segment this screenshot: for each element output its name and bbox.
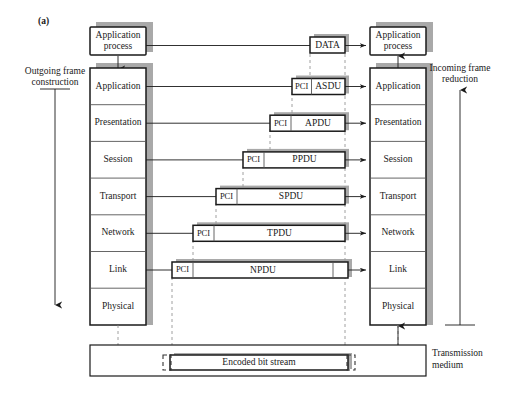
pdu-label-ppdu: PPDU: [292, 154, 316, 164]
pdu-pci-tpdu: PCI: [197, 228, 210, 238]
pdu-pci-asdu: PCI: [295, 81, 308, 91]
source-layer-physical: Physical: [102, 301, 135, 311]
pdu-label-apdu: APDU: [305, 118, 331, 128]
diagram-canvas: (a) Application process Application Pres…: [0, 0, 515, 396]
outgoing-label-line2: construction: [32, 77, 79, 87]
transmission-medium-label-2: medium: [432, 360, 464, 370]
pdu-label-npdu: NPDU: [250, 265, 276, 275]
pdu-pci-spdu: PCI: [220, 191, 233, 201]
encoded-bit-stream-label: Encoded bit stream: [222, 357, 296, 367]
source-layer-transport: Transport: [100, 191, 137, 201]
figure-tag: (a): [38, 16, 49, 27]
source-process-label-1: Application: [96, 30, 141, 40]
outgoing-label-line1: Outgoing frame: [25, 66, 85, 76]
destination-process-label-1: Application: [376, 30, 421, 40]
incoming-label-line1: Incoming frame: [430, 63, 491, 73]
source-layer-presentation: Presentation: [95, 117, 142, 127]
pdu-pci-ppdu: PCI: [247, 154, 260, 164]
pdu-label-asdu: ASDU: [315, 81, 341, 91]
destination-layer-application: Application: [376, 81, 421, 91]
osi-encapsulation-diagram: (a) Application process Application Pres…: [0, 0, 515, 396]
pdu-pci-apdu: PCI: [274, 118, 287, 128]
pdu-label-spdu: SPDU: [279, 191, 303, 201]
destination-process-label-2: process: [384, 41, 413, 51]
incoming-label-line2: reduction: [442, 74, 478, 84]
destination-layer-presentation: Presentation: [375, 117, 422, 127]
pdu-label-tpdu: TPDU: [267, 228, 292, 238]
source-layer-link: Link: [109, 264, 127, 274]
source-layer-network: Network: [101, 227, 134, 237]
pdu-label-data: DATA: [315, 40, 340, 50]
destination-layer-physical: Physical: [382, 301, 415, 311]
destination-layer-transport: Transport: [380, 191, 417, 201]
source-process-label-2: process: [104, 41, 133, 51]
destination-layer-session: Session: [383, 154, 412, 164]
destination-layer-network: Network: [381, 227, 414, 237]
source-layer-application: Application: [96, 81, 141, 91]
pdu-pci-npdu: PCI: [176, 264, 189, 274]
destination-layer-link: Link: [389, 264, 407, 274]
source-layer-session: Session: [103, 154, 132, 164]
transmission-medium-label-1: Transmission: [432, 348, 483, 358]
